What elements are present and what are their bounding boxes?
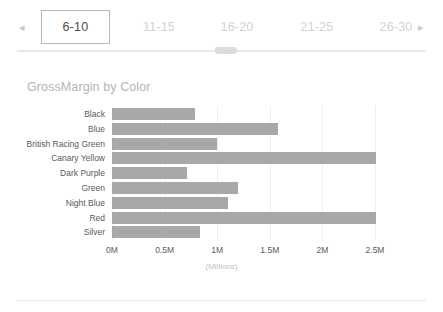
footer-divider <box>17 300 426 301</box>
pager-tab-26-30[interactable]: 26-30 <box>363 10 429 44</box>
chart-bar-row: Night Blue <box>0 196 443 211</box>
chart-bar[interactable] <box>112 167 187 179</box>
pager-tab-11-15[interactable]: 11-15 <box>126 10 192 44</box>
chart-bar-row: Dark Purple <box>0 166 443 181</box>
chart-x-tick-label: 1M <box>197 244 237 256</box>
chart-bar[interactable] <box>112 197 228 209</box>
pager-tab-21-25[interactable]: 21-25 <box>284 10 350 44</box>
chart-category-label: Green <box>0 181 105 196</box>
chart-category-label: Blue <box>0 122 105 137</box>
chart-bar[interactable] <box>112 212 376 224</box>
chart-card: GrossMargin by Color BlackBlueBritish Ra… <box>0 56 443 286</box>
chart-axis-label: (Millions) <box>0 262 443 271</box>
chart-x-tick-label: 0M <box>92 244 132 256</box>
chart-bar-row: Green <box>0 181 443 196</box>
chart-x-axis: 0M0.5M1M1.5M2M2.5M <box>0 244 443 258</box>
chart-category-label: Red <box>0 211 105 226</box>
chart-title: GrossMargin by Color <box>27 80 151 94</box>
chart-category-label: British Racing Green <box>0 137 105 152</box>
chart-bar[interactable] <box>112 138 217 150</box>
chart-bar-row: Blue <box>0 122 443 137</box>
chart-bar[interactable] <box>112 226 200 238</box>
chart-bar-row: British Racing Green <box>0 137 443 152</box>
pager-scrollbar-thumb[interactable] <box>215 47 237 54</box>
chart-bar[interactable] <box>112 182 238 194</box>
chart-bar-rows: BlackBlueBritish Racing GreenCanary Yell… <box>0 106 443 241</box>
chart-bar-row: Black <box>0 107 443 122</box>
chart-bar-row: Red <box>0 211 443 226</box>
pager-prev-arrow-icon[interactable]: ◂ <box>16 20 28 34</box>
chart-x-tick-label: 2.5M <box>355 244 395 256</box>
pager-tab-6-10[interactable]: 6-10 <box>41 10 110 44</box>
chart-bar[interactable] <box>112 152 376 164</box>
chart-category-label: Dark Purple <box>0 166 105 181</box>
pager-tab-list: 6-10 11-15 16-20 21-25 26-30 <box>36 10 407 46</box>
chart-bar-row: Silver <box>0 225 443 240</box>
page-navigator: ◂ ▸ 6-10 11-15 16-20 21-25 26-30 <box>0 0 443 56</box>
pager-tab-16-20[interactable]: 16-20 <box>204 10 270 44</box>
chart-category-label: Canary Yellow <box>0 151 105 166</box>
chart-bar-row: Canary Yellow <box>0 151 443 166</box>
chart-x-tick-label: 0.5M <box>145 244 185 256</box>
chart-category-label: Silver <box>0 225 105 240</box>
chart-x-tick-label: 2M <box>302 244 342 256</box>
chart-category-label: Night Blue <box>0 196 105 211</box>
chart-x-tick-label: 1.5M <box>250 244 290 256</box>
chart-bar[interactable] <box>112 123 278 135</box>
chart-category-label: Black <box>0 107 105 122</box>
chart-bar[interactable] <box>112 108 195 120</box>
bar-chart-plot: BlackBlueBritish Racing GreenCanary Yell… <box>0 106 443 258</box>
